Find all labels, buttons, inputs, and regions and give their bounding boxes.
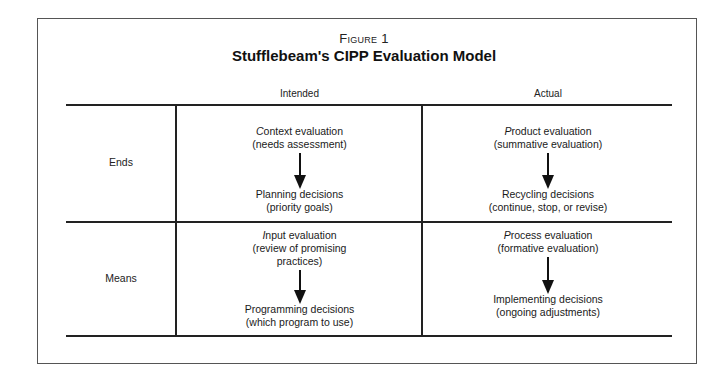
cell-process-evaluation: Process evaluation (formative evaluation…: [423, 229, 673, 329]
decision-note: (priority goals): [177, 201, 422, 214]
column-header-intended: Intended: [177, 88, 422, 99]
figure-label: Figure 1: [0, 31, 728, 46]
evaluation-note-line2: practices): [177, 255, 422, 268]
down-arrow-icon: [294, 153, 306, 189]
evaluation-note: (summative evaluation): [423, 138, 673, 151]
evaluation-label: Product evaluation: [423, 125, 673, 138]
evaluation-label: Process evaluation: [423, 229, 673, 242]
decision-label: Planning decisions: [177, 188, 422, 201]
evaluation-note-line1: (review of promising: [177, 242, 422, 255]
cell-context-evaluation: Context evaluation (needs assessment) Pl…: [177, 125, 422, 215]
cell-product-evaluation: Product evaluation (summative evaluation…: [423, 125, 673, 215]
decision-note: (ongoing adjustments): [423, 306, 673, 319]
row-header-ends: Ends: [66, 156, 176, 168]
cell-input-evaluation: Input evaluation (review of promising pr…: [177, 229, 422, 329]
decision-label: Recycling decisions: [423, 188, 673, 201]
evaluation-note: (formative evaluation): [423, 242, 673, 255]
table-bottom-rule: [66, 335, 672, 337]
row-header-means: Means: [66, 272, 176, 284]
decision-note: (continue, stop, or revise): [423, 201, 673, 214]
table-middle-rule: [66, 221, 672, 223]
column-header-actual: Actual: [423, 88, 673, 99]
decision-label: Implementing decisions: [423, 293, 673, 306]
evaluation-label: Context evaluation: [177, 125, 422, 138]
figure-title: Stufflebeam's CIPP Evaluation Model: [0, 47, 728, 64]
evaluation-label: Input evaluation: [177, 229, 422, 242]
down-arrow-icon: [542, 257, 554, 294]
evaluation-note: (needs assessment): [177, 138, 422, 151]
down-arrow-icon: [542, 153, 554, 189]
down-arrow-icon: [294, 270, 306, 304]
table-top-rule: [66, 104, 672, 106]
decision-label: Programming decisions: [177, 303, 422, 316]
decision-note: (which program to use): [177, 316, 422, 329]
